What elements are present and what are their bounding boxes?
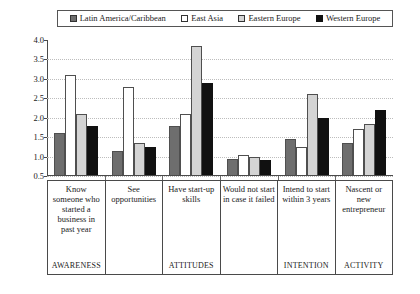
bar-3 (260, 160, 271, 176)
bar-1 (238, 155, 249, 176)
y-axis-tick-label: 4.0 (22, 36, 44, 45)
legend-label-east-asia: East Asia (191, 14, 223, 23)
category-cell-1: See opportunities (106, 181, 164, 274)
category-cell-2: Have start-up skillsATTITUDES (163, 181, 221, 274)
category-label: Have start-up skills (165, 184, 218, 204)
legend-swatch-icon-latin-america (70, 15, 77, 22)
category-label: Would not start in case it failed (223, 184, 276, 204)
bar-3 (202, 83, 213, 176)
y-axis-tick-label: 3.5 (22, 55, 44, 64)
bar-2 (76, 114, 87, 176)
bar-1 (353, 129, 364, 176)
bar-group (105, 40, 163, 176)
y-axis-tick-label: 1.0 (22, 152, 44, 161)
y-axis-tick-label: 2.0 (22, 113, 44, 122)
y-axis-tick-label: 0.5 (22, 172, 44, 181)
bar-0 (285, 139, 296, 176)
bar-group (220, 40, 278, 176)
bar-2 (191, 46, 202, 176)
bar-group (162, 40, 220, 176)
bar-0 (112, 151, 123, 176)
x-axis-line (47, 175, 393, 176)
category-label-table: Know someone who started a business in p… (47, 180, 393, 275)
bar-0 (169, 126, 180, 177)
bar-group (335, 40, 393, 176)
bar-groups (47, 40, 393, 176)
legend-label-latin-america: Latin America/Caribbean (80, 14, 166, 23)
bar-3 (145, 147, 156, 176)
category-cell-5: Nascent or new entrepreneurACTIVITY (336, 181, 393, 274)
bar-0 (342, 143, 353, 176)
bar-group (47, 40, 105, 176)
y-axis-labels: 4.03.53.02.52.01.51.00.5 (20, 40, 44, 176)
bar-2 (307, 94, 318, 176)
legend-item-eastern-europe: Eastern Europe (238, 14, 300, 23)
y-axis-tick-label: 1.5 (22, 133, 44, 142)
category-cell-0: Know someone who started a business in p… (48, 181, 106, 274)
bar-2 (249, 157, 260, 176)
legend-item-east-asia: East Asia (181, 14, 223, 23)
category-cell-3: Would not start in case it failed (221, 181, 279, 274)
phase-label: AWARENESS (48, 261, 105, 270)
category-cell-4: Intend to start within 3 yearsINTENTION (278, 181, 336, 274)
category-label: Intend to start within 3 years (280, 184, 333, 204)
phase-label: INTENTION (278, 261, 335, 270)
bar-1 (180, 114, 191, 176)
bar-0 (227, 159, 238, 176)
bar-3 (318, 118, 329, 176)
bar-3 (87, 126, 98, 177)
chart-figure: Latin America/Caribbean East Asia Easter… (0, 0, 420, 294)
bar-1 (123, 87, 134, 176)
phase-label: ATTITUDES (163, 261, 220, 270)
legend-swatch-icon-western-europe (316, 15, 323, 22)
y-axis-tick-label: 3.0 (22, 74, 44, 83)
legend-item-latin-america: Latin America/Caribbean (70, 14, 166, 23)
legend-swatch-icon-east-asia (181, 15, 188, 22)
bar-0 (54, 133, 65, 176)
legend-label-western-europe: Western Europe (326, 14, 380, 23)
legend-swatch-icon-eastern-europe (238, 15, 245, 22)
y-axis-tick-label: 2.5 (22, 94, 44, 103)
chart-legend: Latin America/Caribbean East Asia Easter… (57, 10, 393, 27)
bar-group (278, 40, 336, 176)
bar-1 (296, 147, 307, 176)
plot-area (47, 40, 393, 176)
category-label: Know someone who started a business in p… (50, 184, 103, 234)
legend-label-eastern-europe: Eastern Europe (248, 14, 300, 23)
category-label: See opportunities (108, 184, 161, 204)
bar-3 (375, 110, 386, 176)
phase-label: ACTIVITY (336, 261, 393, 270)
legend-item-western-europe: Western Europe (316, 14, 380, 23)
bar-1 (65, 75, 76, 176)
category-label: Nascent or new entrepreneur (338, 184, 391, 214)
bar-2 (134, 143, 145, 176)
bar-2 (364, 124, 375, 176)
